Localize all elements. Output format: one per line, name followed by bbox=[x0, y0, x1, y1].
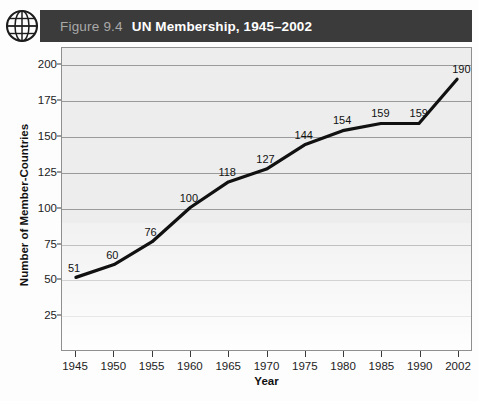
x-tick-mark bbox=[305, 351, 306, 357]
x-tick-mark bbox=[75, 351, 76, 357]
x-tick-mark bbox=[113, 351, 114, 357]
data-point-label: 100 bbox=[180, 192, 198, 204]
x-tick-mark bbox=[381, 351, 382, 357]
data-point-label: 127 bbox=[256, 153, 274, 165]
x-tick-mark bbox=[228, 351, 229, 357]
figure-container: Figure 9.4 UN Membership, 1945–2002 2550… bbox=[0, 0, 478, 401]
data-point-label: 76 bbox=[144, 226, 156, 238]
x-tick-mark bbox=[267, 351, 268, 357]
x-tick-label: 2002 bbox=[435, 360, 478, 372]
data-point-label: 190 * bbox=[452, 63, 472, 75]
data-point-label: 159 bbox=[410, 107, 428, 119]
data-point-label: 60 bbox=[106, 249, 118, 261]
y-tick-label: 200 bbox=[19, 58, 57, 70]
x-tick-mark bbox=[152, 351, 153, 357]
x-axis-title: Year bbox=[61, 375, 472, 387]
series-polyline bbox=[76, 79, 457, 277]
figure-number: Figure 9.4 bbox=[60, 19, 123, 34]
data-series-line bbox=[62, 48, 471, 350]
x-tick-mark bbox=[190, 351, 191, 357]
figure-title: UN Membership, 1945–2002 bbox=[132, 19, 312, 34]
data-point-label: 144 bbox=[295, 129, 313, 141]
y-axis-title: Number of Member-Countries bbox=[18, 100, 30, 310]
x-tick-mark bbox=[343, 351, 344, 357]
data-point-label: 159 bbox=[371, 107, 389, 119]
figure-header-bar: Figure 9.4 UN Membership, 1945–2002 bbox=[40, 10, 472, 42]
data-point-label: 118 bbox=[218, 166, 236, 178]
x-tick-mark bbox=[458, 351, 459, 357]
x-tick-mark bbox=[420, 351, 421, 357]
data-point-label: 51 bbox=[68, 262, 80, 274]
globe-icon bbox=[4, 8, 40, 44]
y-tick-label: 25 bbox=[19, 309, 57, 321]
plot-area: 516076100118127144154159159190 * bbox=[61, 47, 472, 351]
data-point-label: 154 bbox=[333, 114, 351, 126]
